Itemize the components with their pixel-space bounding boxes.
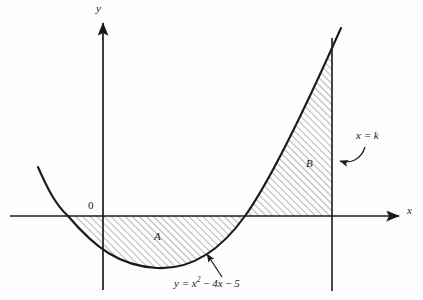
region-b-hatch (240, 20, 340, 220)
curve-equation-label: y = x2 − 4x − 5 (174, 278, 240, 289)
x-axis-label: x (407, 205, 412, 216)
region-b-label: B (306, 158, 313, 169)
region-a-label: A (154, 231, 161, 242)
vertical-line-label: x = k (356, 130, 379, 141)
equation-leader-arrow (207, 254, 222, 277)
graph-svg (0, 0, 423, 300)
origin-label: 0 (88, 200, 94, 211)
xk-leader-arrow (340, 147, 365, 162)
y-axis-label: y (96, 3, 101, 14)
figure-canvas: y x 0 A B x = k y = x2 − 4x − 5 (0, 0, 423, 300)
